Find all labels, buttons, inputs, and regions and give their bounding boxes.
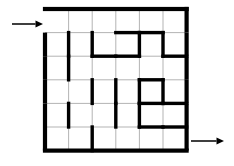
interior-wall-vertical: [67, 55, 70, 82]
maze-canvas: [0, 0, 234, 166]
border-wall-left: [43, 127, 47, 151]
interior-wall-vertical: [91, 31, 94, 58]
interior-wall-horizontal: [138, 102, 165, 105]
interior-wall-vertical: [114, 102, 117, 129]
border-wall-left: [43, 33, 47, 57]
interior-wall-vertical: [161, 78, 164, 105]
exit-arrow-shaft: [191, 140, 217, 142]
border-wall-right: [185, 7, 189, 33]
interior-wall-vertical: [91, 78, 94, 105]
border-wall-right: [185, 80, 189, 104]
interior-wall-vertical: [91, 125, 94, 152]
interior-wall-horizontal: [161, 55, 188, 58]
interior-wall-horizontal: [114, 31, 141, 34]
interior-wall-vertical: [114, 78, 117, 105]
interior-wall-vertical: [138, 102, 141, 129]
interior-wall-horizontal: [161, 125, 188, 128]
interior-wall-vertical: [67, 31, 70, 58]
entry-arrow-shaft: [12, 23, 36, 25]
border-wall-left: [43, 103, 47, 127]
interior-wall-vertical: [138, 31, 141, 58]
interior-wall-horizontal: [138, 78, 165, 81]
interior-wall-vertical: [138, 78, 141, 105]
maze-figure: [0, 0, 234, 166]
border-wall-right: [185, 33, 189, 57]
border-wall-left: [43, 80, 47, 104]
border-wall-right: [185, 103, 189, 127]
interior-wall-horizontal: [138, 31, 165, 34]
interior-wall-horizontal: [91, 55, 118, 58]
border-wall-right: [185, 56, 189, 80]
interior-wall-horizontal: [114, 55, 141, 58]
interior-wall-vertical: [161, 31, 164, 58]
interior-wall-horizontal: [161, 102, 188, 105]
border-wall-top: [43, 7, 189, 11]
border-wall-left: [43, 56, 47, 80]
interior-wall-vertical: [67, 102, 70, 129]
border-wall-right: [185, 127, 189, 151]
interior-wall-horizontal: [138, 125, 165, 128]
border-wall-bottom: [43, 149, 189, 153]
